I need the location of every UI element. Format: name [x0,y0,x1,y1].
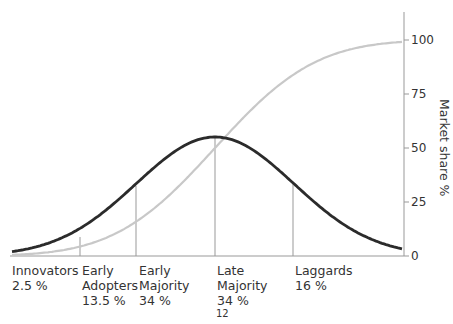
label-innovators: Innovators 2.5 % [12,263,78,293]
y-ticks [404,40,409,256]
tick-25: 25 [411,195,426,209]
tick-0: 0 [411,249,419,263]
label-early-majority: Early Majority 34 % [139,263,189,308]
tick-100: 100 [411,33,434,47]
adoption-bell-curve [12,137,402,252]
page-number: 12 [216,308,229,319]
tick-50: 50 [411,141,426,155]
label-laggards: Laggards 16 % [295,263,353,293]
label-late-majority: Late Majority 34 % [217,263,267,308]
tick-75: 75 [411,87,426,101]
y-axis-label: Market share % [437,99,452,196]
label-early-adopters: Early Adopters 13.5 % [82,263,138,308]
